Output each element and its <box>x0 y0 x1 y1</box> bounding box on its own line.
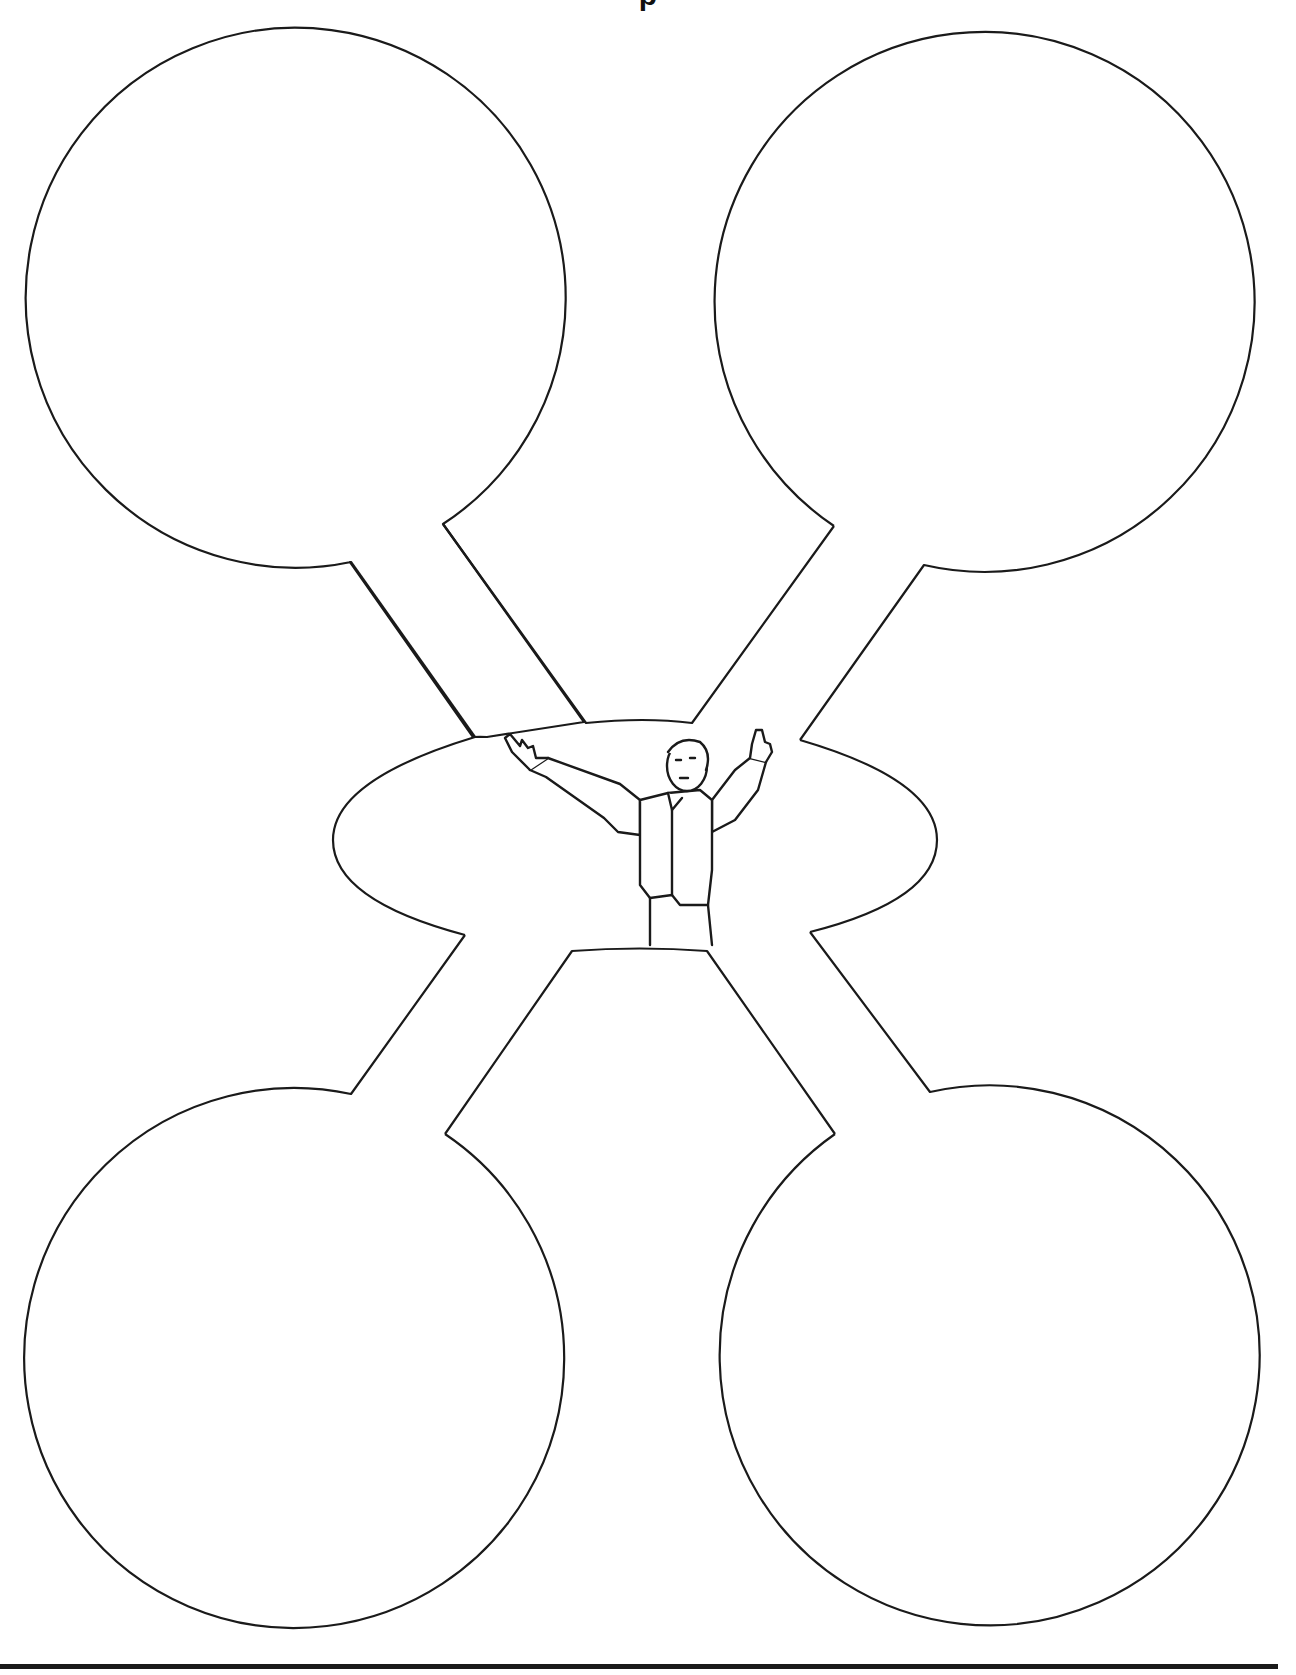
arm-top-left <box>351 562 475 737</box>
bottom-rule <box>0 1664 1278 1669</box>
lower-channel <box>445 949 835 1135</box>
center-ellipse-right <box>800 740 937 932</box>
upper-channel <box>443 524 834 723</box>
bubble-top-left[interactable] <box>26 28 584 737</box>
bubble-map-diagram <box>0 0 1296 1675</box>
bubble-bottom-left[interactable] <box>24 935 564 1628</box>
figure-illustration <box>505 730 772 945</box>
bubble-bottom-right[interactable] <box>720 932 1260 1625</box>
center-ellipse-left <box>333 737 475 935</box>
bubble-top-right[interactable] <box>715 32 1255 740</box>
